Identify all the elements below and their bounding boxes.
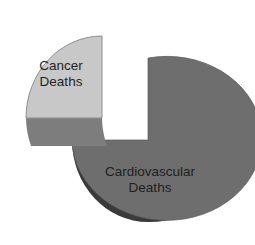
slice-cancer-top — [26, 36, 102, 118]
slice-cancer-side — [26, 118, 107, 146]
slice-cancer[interactable] — [26, 36, 107, 146]
pie-chart-graphic — [0, 0, 255, 245]
pie-chart-figure: Cancer Deaths Cardiovascular Deaths — [0, 0, 255, 245]
